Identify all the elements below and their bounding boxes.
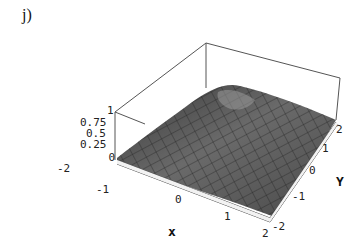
- y-tick-neg2: -2: [272, 220, 285, 233]
- x-tick-2: 2: [262, 227, 269, 240]
- z-tick-0: 0: [108, 151, 115, 164]
- surface-plot: 1 0.75 0.5 0.25 0 -2 -1 0 1 2 x -2 -1 0 …: [0, 0, 364, 246]
- x-tick-0: 0: [175, 193, 182, 206]
- x-tick-neg2: -2: [57, 162, 70, 175]
- z-axis: 1 0.75 0.5 0.25 0: [80, 104, 115, 164]
- x-tick-neg1: -1: [96, 183, 109, 196]
- z-tick-025: 0.25: [80, 138, 107, 151]
- y-tick-neg1: -1: [292, 190, 305, 203]
- x-axis-label: x: [168, 224, 176, 239]
- y-tick-1: 1: [322, 142, 329, 155]
- z-tick-1: 1: [107, 104, 114, 117]
- y-tick-2: 2: [336, 123, 343, 136]
- y-axis-label: Y: [336, 174, 344, 189]
- x-tick-1: 1: [224, 210, 231, 223]
- y-tick-0: 0: [309, 164, 316, 177]
